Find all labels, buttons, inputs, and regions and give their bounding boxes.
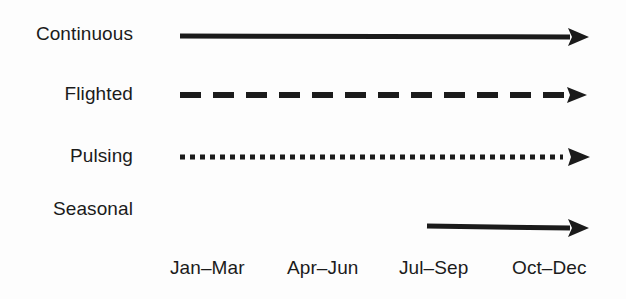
axis-label-oct-dec: Oct–Dec: [512, 258, 587, 277]
axis-label-apr-jun: Apr–Jun: [287, 258, 358, 277]
timeline-arrow-flighted: [180, 87, 587, 103]
timeline-arrow-continuous: [180, 28, 589, 46]
continuous-line: [180, 36, 570, 37]
timeline-arrow-seasonal: [427, 219, 589, 237]
axis-label-jan-mar: Jan–Mar: [170, 258, 245, 277]
continuous-arrowhead: [568, 28, 589, 46]
pulsing-arrowhead: [568, 148, 590, 166]
advertising-scheduling-timeline-figure: Continuous Flighted Pulsing Seasonal Jan…: [0, 0, 626, 299]
timeline-arrows-group: [0, 0, 626, 299]
seasonal-arrowhead: [568, 219, 589, 237]
seasonal-line: [427, 226, 570, 228]
timeline-arrow-pulsing: [180, 148, 590, 166]
flighted-arrowhead: [567, 87, 587, 103]
axis-label-jul-sep: Jul–Sep: [399, 258, 468, 277]
